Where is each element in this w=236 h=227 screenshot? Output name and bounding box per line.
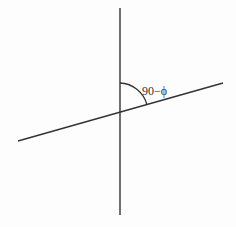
diagram-canvas: 90−ϕ [0,0,236,227]
angle-label: 90−ϕ [142,84,167,98]
diagram-svg [0,0,236,227]
